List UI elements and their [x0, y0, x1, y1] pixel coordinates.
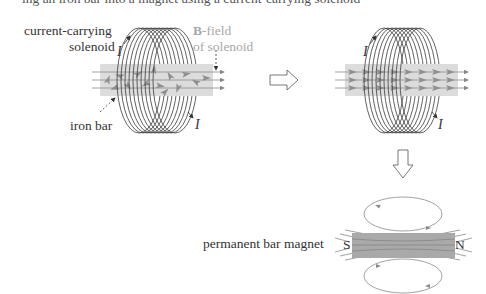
label-of-solenoid: of solenoid: [193, 40, 253, 54]
label-current-bottom-left: I: [195, 118, 200, 132]
bar-magnet-panel: [335, 197, 472, 293]
label-permanent-bar-magnet: permanent bar magnet: [203, 237, 324, 251]
label-pole-north: N: [455, 238, 465, 252]
label-current-bottom-right: I: [438, 118, 443, 132]
magnet-body: [352, 233, 455, 258]
right-solenoid-panel: [335, 28, 468, 133]
label-bfield: B-field: [193, 24, 231, 38]
iron-bar-pointer: [100, 98, 115, 112]
label-current-top-right: I: [363, 45, 368, 59]
down-arrow-icon: [393, 150, 413, 178]
right-arrow-icon: [270, 70, 298, 90]
label-solenoid: solenoid: [69, 40, 115, 54]
label-bfield-suffix: -field: [202, 23, 231, 38]
label-bfield-symbol: B: [193, 23, 202, 38]
label-current-carrying: current-carrying: [24, 24, 112, 38]
label-iron-bar: iron bar: [70, 119, 112, 133]
label-current-top-left: I: [117, 45, 122, 59]
label-pole-south: S: [343, 238, 351, 252]
